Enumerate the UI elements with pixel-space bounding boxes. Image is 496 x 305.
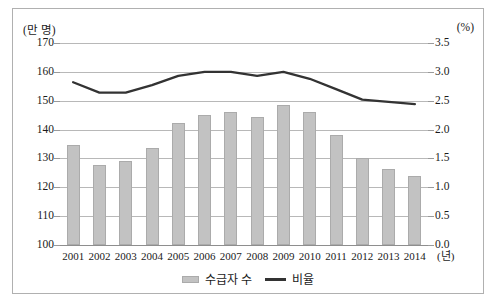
right-tick-dash: [428, 187, 434, 188]
x-tick-label-2010: 2010: [299, 251, 321, 262]
right-tick-dash: [428, 101, 434, 102]
right-tick-label: 1.5: [435, 152, 449, 164]
legend-item-recipients: 수급자 수: [182, 270, 252, 288]
x-tick-label-2014: 2014: [404, 251, 426, 262]
left-tick-label: 130: [37, 152, 54, 164]
x-axis-unit-label: (년): [437, 251, 454, 262]
legend-item-ratio: 비율: [265, 270, 314, 288]
x-tick-label-2004: 2004: [141, 251, 163, 262]
x-tick-label-2008: 2008: [246, 251, 268, 262]
right-tick-label: 1.0: [435, 181, 449, 193]
left-tick-dash: [54, 245, 60, 246]
chart-legend: 수급자 수 비율: [13, 270, 483, 288]
right-tick-label: 3.0: [435, 66, 449, 78]
left-tick-label: 140: [37, 124, 54, 136]
legend-label-ratio: 비율: [292, 270, 314, 288]
x-tick-label-2009: 2009: [272, 251, 294, 262]
x-tick-label-2012: 2012: [351, 251, 373, 262]
left-axis-unit-label: (만 명): [23, 21, 56, 37]
x-tick-label-2006: 2006: [194, 251, 216, 262]
left-tick-label: 170: [37, 37, 54, 49]
left-tick-label: 100: [37, 239, 54, 251]
right-tick-dash: [428, 130, 434, 131]
line-series-비율: [60, 43, 428, 245]
gridline: [60, 245, 428, 246]
ratio-polyline: [73, 72, 415, 104]
legend-label-recipients: 수급자 수: [205, 270, 252, 288]
right-tick-label: 2.0: [435, 124, 449, 136]
x-tick-label-2007: 2007: [220, 251, 242, 262]
x-tick-label-2013: 2013: [378, 251, 400, 262]
right-tick-label: 0.0: [435, 239, 449, 251]
x-tick-label-2003: 2003: [115, 251, 137, 262]
left-tick-label: 160: [37, 66, 54, 78]
right-tick-label: 2.5: [435, 95, 449, 107]
plot-area: 170160150140130120110100 3.53.02.52.01.5…: [60, 43, 428, 245]
right-tick-label: 0.5: [435, 210, 449, 222]
x-tick-label-2011: 2011: [325, 251, 347, 262]
left-tick-label: 150: [37, 95, 54, 107]
x-tick-label-2001: 2001: [62, 251, 84, 262]
right-tick-dash: [428, 245, 434, 246]
x-tick-label-2002: 2002: [88, 251, 110, 262]
left-tick-label: 110: [37, 210, 54, 222]
right-tick-dash: [428, 72, 434, 73]
left-tick-label: 120: [37, 181, 54, 193]
right-tick-dash: [428, 216, 434, 217]
right-tick-dash: [428, 158, 434, 159]
right-tick-label: 3.5: [435, 37, 449, 49]
bar-swatch-icon: [182, 276, 199, 283]
right-axis-unit-label: (%): [457, 21, 474, 33]
chart-figure: (만 명) (%) 170160150140130120110100 3.53.…: [12, 8, 484, 294]
x-tick-label-2005: 2005: [167, 251, 189, 262]
right-tick-dash: [428, 43, 434, 44]
line-swatch-icon: [265, 278, 286, 281]
